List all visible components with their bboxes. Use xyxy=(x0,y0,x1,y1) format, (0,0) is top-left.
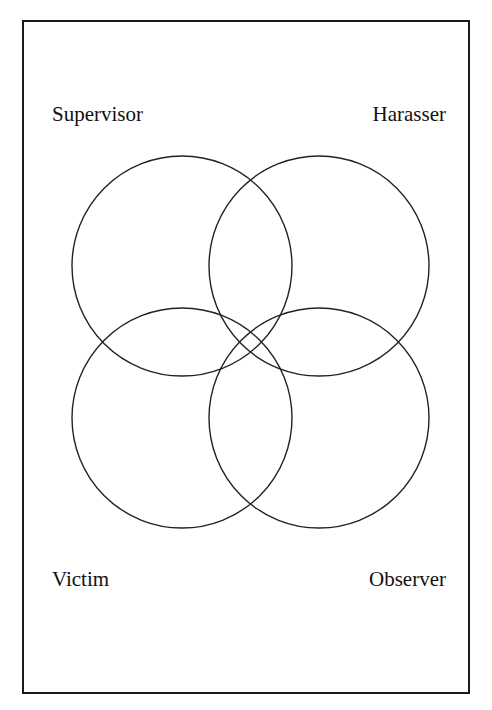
circle-supervisor xyxy=(72,156,292,376)
circle-harasser xyxy=(209,156,429,376)
label-victim: Victim xyxy=(52,567,109,592)
label-observer: Observer xyxy=(369,567,446,592)
label-harasser: Harasser xyxy=(373,102,446,127)
circle-observer xyxy=(209,308,429,528)
circle-victim xyxy=(72,308,292,528)
label-supervisor: Supervisor xyxy=(52,102,143,127)
